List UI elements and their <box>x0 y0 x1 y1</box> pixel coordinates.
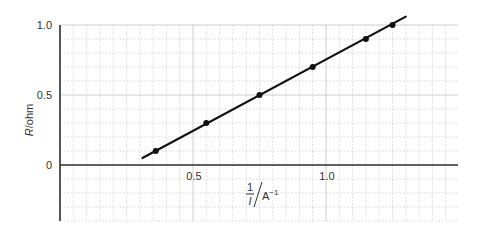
data-point <box>310 64 316 70</box>
y-label-unit: /ohm <box>23 104 35 128</box>
data-point <box>363 36 369 42</box>
data-point <box>203 120 209 126</box>
x-label-unit-exponent: −1 <box>269 188 279 197</box>
x-label-numerator: 1 <box>247 181 253 193</box>
x-tick-label: 1.0 <box>319 170 334 182</box>
data-point <box>153 148 159 154</box>
tick-labels: 00.51.00.51.0 <box>37 19 335 182</box>
chart: 00.51.00.51.0 R/ohm 1 I A−1 <box>0 0 482 234</box>
y-tick-label: 0 <box>46 159 52 171</box>
y-tick-label: 1.0 <box>37 19 52 31</box>
data-point <box>257 92 263 98</box>
x-label-unit: A−1 <box>262 188 279 202</box>
y-axis-label: R/ohm <box>23 104 35 136</box>
y-tick-label: 0.5 <box>37 89 52 101</box>
svg-text:R/ohm: R/ohm <box>23 104 35 136</box>
data-point <box>390 22 396 28</box>
y-label-symbol: R <box>23 128 35 136</box>
solidus <box>254 182 262 207</box>
x-tick-label: 0.5 <box>186 170 201 182</box>
x-label-denominator: I <box>248 195 251 207</box>
x-axis-label: 1 I A−1 <box>246 181 279 207</box>
